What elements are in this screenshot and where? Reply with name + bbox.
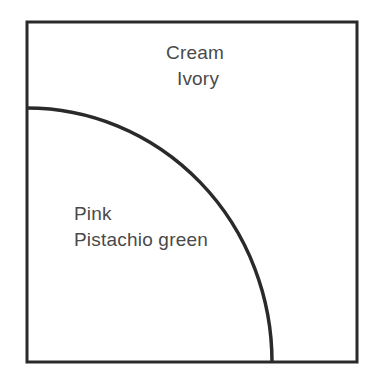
outer-label-line-2: Ivory bbox=[166, 66, 224, 92]
outer-region-label: Cream Ivory bbox=[166, 40, 224, 92]
outer-label-line-1: Cream bbox=[166, 40, 224, 66]
inner-region-label: Pink Pistachio green bbox=[74, 201, 208, 253]
inner-label-line-2: Pistachio green bbox=[74, 227, 208, 253]
inner-label-line-1: Pink bbox=[74, 201, 208, 227]
color-region-diagram: Cream Ivory Pink Pistachio green bbox=[0, 0, 373, 387]
